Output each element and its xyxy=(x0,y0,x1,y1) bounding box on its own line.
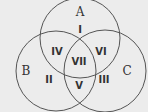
set-label-b: B xyxy=(22,64,31,78)
region-vi: VI xyxy=(95,46,106,57)
region-iv: IV xyxy=(51,46,63,57)
venn-diagram: A B C I II III IV V VI VII xyxy=(0,0,148,112)
region-v: V xyxy=(75,80,83,91)
region-ii: II xyxy=(45,74,52,85)
region-i: I xyxy=(78,24,82,35)
set-label-a: A xyxy=(75,5,85,19)
set-label-c: C xyxy=(122,64,131,78)
region-iii: III xyxy=(98,74,109,85)
region-vii: VII xyxy=(71,56,86,67)
